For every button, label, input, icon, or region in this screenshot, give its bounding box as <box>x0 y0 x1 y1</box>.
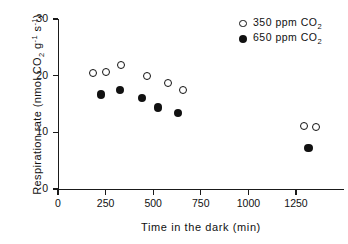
x-axis-tick <box>248 190 249 195</box>
respiration-rate-scatter-chart: 0102030 025050075010001250 Time in the d… <box>0 0 348 244</box>
y-axis-tick <box>53 18 58 19</box>
y-axis-tick <box>53 75 58 76</box>
y-axis-title-prefix: Respiration rate (nmol CO <box>31 57 43 195</box>
x-axis-tick-label: 250 <box>86 197 126 209</box>
data-point-650ppm <box>174 109 183 118</box>
y-axis-tick <box>53 132 58 133</box>
y-axis-title-sup-1: -1 <box>30 35 39 42</box>
legend-label-650ppm-sub: 2 <box>318 37 323 46</box>
open-circle-icon <box>239 20 253 28</box>
x-axis-tick <box>105 190 106 195</box>
data-point-650ppm <box>138 94 147 103</box>
legend-label-650ppm: 650 ppm CO2 <box>253 31 322 46</box>
x-axis-tick-label: 1000 <box>228 197 268 209</box>
data-point-350ppm <box>312 123 320 131</box>
data-point-650ppm <box>97 90 106 99</box>
y-axis-title-suffix: ) <box>31 14 43 18</box>
legend-item-650ppm: 650 ppm CO2 <box>239 31 322 46</box>
chart-legend: 350 ppm CO2 650 ppm CO2 <box>239 16 322 46</box>
data-point-350ppm <box>300 122 308 130</box>
data-point-350ppm <box>89 69 97 77</box>
data-point-650ppm <box>116 86 125 95</box>
y-axis-title: Respiration rate (nmol CO2 g-1 s-1) <box>30 4 47 204</box>
data-point-350ppm <box>164 79 172 87</box>
legend-label-350ppm: 350 ppm CO2 <box>253 16 322 31</box>
y-axis-line <box>58 19 59 190</box>
data-point-350ppm <box>102 68 110 76</box>
data-point-650ppm <box>304 144 313 153</box>
legend-label-350ppm-text: 350 ppm CO <box>253 16 318 28</box>
x-axis-tick <box>200 190 201 195</box>
y-axis-title-mid-1: g <box>31 42 43 52</box>
x-axis-tick-label: 1250 <box>276 197 316 209</box>
y-axis-title-sup-2: -1 <box>30 18 39 25</box>
y-axis-title-sub-1: 2 <box>37 52 46 57</box>
data-point-350ppm <box>143 72 151 80</box>
x-axis-tick <box>295 190 296 195</box>
data-point-350ppm <box>179 86 187 94</box>
filled-circle-icon <box>239 35 253 43</box>
legend-item-350ppm: 350 ppm CO2 <box>239 16 322 31</box>
x-axis-tick <box>57 190 58 195</box>
legend-label-650ppm-text: 650 ppm CO <box>253 31 318 43</box>
data-point-350ppm <box>117 61 125 69</box>
x-axis-tick-label: 500 <box>133 197 173 209</box>
x-axis-tick-label: 750 <box>181 197 221 209</box>
x-axis-title: Time in the dark (min) <box>58 221 344 233</box>
data-point-650ppm <box>154 103 163 112</box>
y-axis-title-mid-2: s <box>31 26 43 35</box>
legend-label-350ppm-sub: 2 <box>318 22 323 31</box>
x-axis-tick <box>153 190 154 195</box>
